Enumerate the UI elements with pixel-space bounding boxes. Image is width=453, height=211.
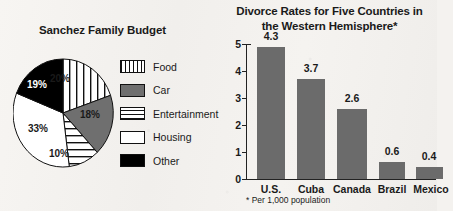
y-tick-mark-4 [242, 71, 247, 72]
y-tick-label-5: 5 [228, 39, 241, 50]
bar-chart-title-line1: Divorce Rates for Five Countries in [222, 4, 437, 19]
y-tick-mark-2 [242, 125, 247, 126]
pie-label-food: 20% [50, 73, 70, 84]
legend-item-entertainment: Entertainment [120, 104, 220, 123]
bar-chart-title: Divorce Rates for Five Countries in the … [222, 4, 437, 34]
y-tick-label-1: 1 [228, 147, 241, 158]
legend-item-housing: Housing [120, 128, 220, 147]
pie-chart-title: Sanchez Family Budget [0, 24, 205, 36]
bar-chart-title-line2: the Western Hemisphere* [222, 19, 437, 34]
bar-value-canada: 2.6 [337, 92, 367, 104]
legend-item-food: Food [120, 57, 220, 76]
legend-swatch-entertainment [120, 107, 145, 120]
x-axis-line [246, 179, 436, 180]
y-tick-mark-1 [242, 152, 247, 153]
legend-item-other: Other [120, 151, 220, 170]
y-tick-mark-5 [242, 44, 247, 45]
bar-cuba [297, 79, 325, 179]
bar-value-brazil: 0.6 [377, 145, 407, 157]
bar-brazil [379, 162, 405, 179]
bar-canada [337, 109, 367, 179]
legend-swatch-food [120, 60, 145, 73]
y-tick-mark-0 [242, 179, 247, 180]
pie-label-car: 18% [80, 109, 100, 120]
pie-chart-panel: Sanchez Family Budget [0, 0, 222, 211]
pie-label-entertainment: 10% [49, 148, 69, 159]
x-label-mexico: Mexico [408, 183, 453, 195]
y-tick-label-2: 2 [228, 120, 241, 131]
legend-swatch-car [120, 84, 145, 97]
bar-value-us: 4.3 [257, 30, 285, 42]
legend-label-other: Other [153, 155, 179, 167]
pie-label-housing: 33% [28, 123, 48, 134]
y-tick-label-3: 3 [228, 93, 241, 104]
bar-chart-footnote: * Per 1,000 population [246, 195, 330, 205]
legend-swatch-housing [120, 131, 145, 144]
x-label-canada: Canada [329, 183, 375, 195]
pie-label-other: 19% [27, 79, 47, 90]
pie-legend: Food Car Entertainment Housing Other [120, 57, 220, 175]
legend-item-car: Car [120, 81, 220, 100]
y-tick-label-0: 0 [228, 174, 241, 185]
legend-label-housing: Housing [153, 131, 192, 143]
bar-value-mexico: 0.4 [414, 150, 444, 162]
y-tick-mark-3 [242, 98, 247, 99]
y-tick-label-4: 4 [228, 66, 241, 77]
bar-chart-plot-area: 5 4 3 2 1 0 4.3 3.7 2.6 0.6 0.4 U.S. Cub… [246, 44, 430, 180]
bar-value-cuba: 3.7 [297, 62, 325, 74]
x-label-cuba: Cuba [290, 183, 332, 195]
legend-label-car: Car [153, 84, 170, 96]
bar-us [257, 47, 285, 179]
legend-swatch-other [120, 154, 145, 167]
legend-label-entertainment: Entertainment [153, 108, 218, 120]
legend-label-food: Food [153, 61, 177, 73]
x-label-brazil: Brazil [371, 183, 413, 195]
y-axis-line [246, 44, 247, 180]
bar-mexico [416, 167, 443, 179]
bar-chart-panel: Divorce Rates for Five Countries in the … [222, 0, 437, 211]
x-label-us: U.S. [250, 183, 292, 195]
